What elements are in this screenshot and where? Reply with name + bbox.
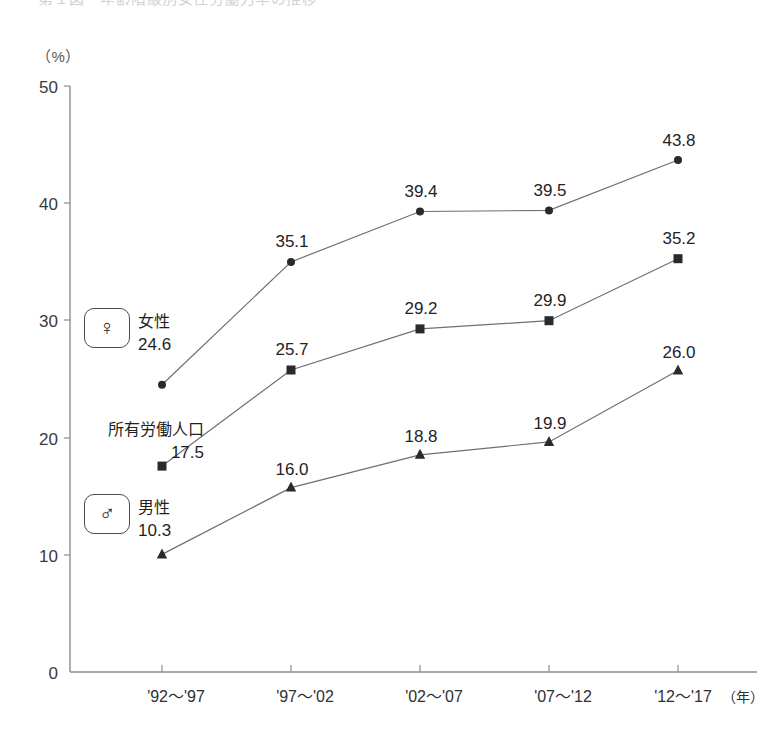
x-tick-label-3: '07〜'12: [534, 688, 592, 705]
series-total-point-label: 35.2: [662, 229, 695, 248]
legend-total-label: 所有労働人口: [88, 418, 204, 441]
legend-male-label: 男性: [138, 496, 171, 519]
series-male-marker: [544, 436, 554, 446]
series-male-point-label: 16.0: [275, 460, 308, 479]
legend-total-value: 17.5: [88, 441, 204, 464]
y-tick-label-10: 10: [39, 547, 58, 566]
series-male-point-label: 18.8: [404, 427, 437, 446]
series-total-point-label: 25.7: [275, 340, 308, 359]
line-chart: 50 40 30 20 10 0 '92〜'97 '97〜'02 '02〜'07…: [0, 0, 780, 739]
series-male-point-label: 26.0: [662, 343, 695, 362]
x-tick-label-1: '97〜'02: [276, 688, 334, 705]
x-tick-label-2: '02〜'07: [405, 688, 463, 705]
y-tick-label-30: 30: [39, 312, 58, 331]
series-female-point-label: 43.8: [662, 131, 695, 150]
series-male-line: [162, 371, 678, 555]
series-male-marker: [673, 365, 683, 375]
y-tick-labels: 50 40 30 20 10 0: [39, 78, 58, 683]
legend-total: 所有労働人口 17.5: [88, 418, 204, 464]
x-tick-label-4: '12〜'17: [654, 688, 712, 705]
figure-page: 第１図 年齢階級別女性労働力率の推移 （%） 50 40 30 20 10 0: [0, 0, 780, 739]
series-total-point-label: 29.2: [404, 299, 437, 318]
legend-female: 女性 24.6: [138, 310, 171, 356]
legend-male: 男性 10.3: [138, 496, 171, 542]
series-male-marker: [157, 548, 167, 558]
female-symbol-icon: ♀: [84, 308, 130, 348]
legend-female-value: 24.6: [138, 333, 171, 356]
series-female-marker: [674, 156, 682, 164]
legend-male-value: 10.3: [138, 519, 171, 542]
series-male-marker: [415, 449, 425, 459]
series-total-marker: [545, 316, 554, 325]
series-female-point-label: 35.1: [275, 232, 308, 251]
series-female: 35.1 39.4 39.5 43.8: [158, 131, 696, 389]
series-female-point-label: 39.5: [533, 181, 566, 200]
y-ticks: [64, 86, 70, 555]
x-tick-label-0: '92〜'97: [147, 688, 205, 705]
y-tick-label-0: 0: [49, 664, 58, 683]
y-tick-label-50: 50: [39, 78, 58, 97]
y-tick-label-40: 40: [39, 195, 58, 214]
x-ticks: [162, 665, 678, 672]
series-total-marker: [416, 324, 425, 333]
series-female-marker: [416, 208, 424, 216]
male-symbol-icon: ♂: [84, 494, 130, 534]
series-total-marker: [287, 366, 296, 375]
series-total-marker: [674, 254, 683, 263]
x-axis-unit-label: （年）: [722, 689, 764, 705]
series-female-point-label: 39.4: [404, 182, 437, 201]
series-total-point-label: 29.9: [533, 291, 566, 310]
series-female-marker: [545, 206, 553, 214]
series-female-marker: [287, 258, 295, 266]
series-male: 16.0 18.8 19.9 26.0: [157, 343, 696, 558]
legend-female-label: 女性: [138, 310, 171, 333]
y-tick-label-20: 20: [39, 430, 58, 449]
series-male-point-label: 19.9: [533, 414, 566, 433]
x-tick-labels: '92〜'97 '97〜'02 '02〜'07 '07〜'12 '12〜'17 …: [147, 688, 764, 705]
series-female-marker: [158, 381, 166, 389]
